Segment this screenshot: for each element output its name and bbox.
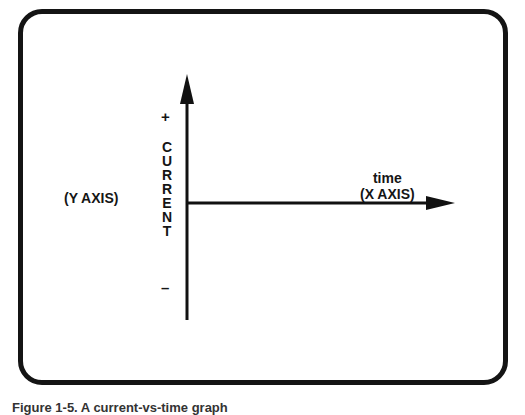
current-letter: N — [160, 210, 174, 224]
time-label: time — [360, 170, 415, 186]
current-letter: U — [160, 154, 174, 168]
current-letter: E — [160, 196, 174, 210]
positive-sign: + — [161, 108, 170, 125]
y-axis-arrowhead — [180, 74, 194, 104]
current-letter: R — [160, 168, 174, 182]
current-letter: R — [160, 182, 174, 196]
x-axis-arrowhead — [426, 196, 455, 210]
y-axis-label: (Y AXIS) — [64, 190, 118, 206]
current-letter: C — [160, 140, 174, 154]
x-axis-name: (X AXIS) — [360, 186, 415, 202]
negative-sign: – — [161, 279, 169, 296]
current-label: C U R R E N T — [160, 140, 174, 238]
current-letter: T — [160, 224, 174, 238]
x-axis-label: time (X AXIS) — [360, 170, 415, 202]
figure-caption: Figure 1-5. A current-vs-time graph — [12, 400, 228, 415]
